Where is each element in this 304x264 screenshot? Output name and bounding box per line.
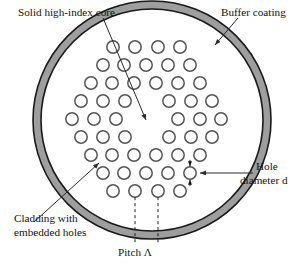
cladding-hole xyxy=(140,59,152,71)
cladding-hole xyxy=(140,167,152,179)
cladding-hole xyxy=(106,149,118,161)
cladding-hole xyxy=(172,149,184,161)
cladding-hole xyxy=(206,95,218,107)
label-solid-high-index-core: Solid high-index core xyxy=(18,6,115,18)
label-hole-line1: Hole xyxy=(256,160,278,172)
cladding-hole xyxy=(97,167,109,179)
cladding-hole xyxy=(119,131,131,143)
label-cladding-line1: Cladding with xyxy=(14,212,78,224)
cladding-hole xyxy=(184,59,196,71)
cladding-hole xyxy=(88,113,100,125)
cladding-hole xyxy=(184,167,196,179)
cladding-hole xyxy=(215,113,227,125)
cladding-hole xyxy=(152,185,164,197)
cladding-hole xyxy=(163,95,175,107)
cladding-hole xyxy=(162,167,174,179)
cladding-hole xyxy=(75,95,87,107)
cladding-hole xyxy=(128,77,140,89)
cladding-hole xyxy=(162,59,174,71)
cladding-hole xyxy=(172,113,184,125)
cladding-hole xyxy=(106,77,118,89)
cladding-hole xyxy=(206,131,218,143)
cladding-hole xyxy=(85,149,97,161)
cladding-hole xyxy=(107,185,119,197)
cladding-hole xyxy=(97,131,109,143)
cladding-hole xyxy=(174,41,186,53)
label-hole-diameter-line2: diameter d xyxy=(240,174,288,186)
pcf-figure: Solid high-index core Buffer coating Cla… xyxy=(0,0,304,264)
cladding-hole xyxy=(185,131,197,143)
cladding-hole xyxy=(129,185,141,197)
cladding-hole xyxy=(110,113,122,125)
cladding-hole xyxy=(118,59,130,71)
cladding-hole xyxy=(163,131,175,143)
cladding-hole xyxy=(129,41,141,53)
cladding-hole xyxy=(128,149,140,161)
cladding-hole xyxy=(85,77,97,89)
cladding-hole xyxy=(172,77,184,89)
label-pitch: Pitch Λ xyxy=(118,246,152,258)
cladding-hole xyxy=(150,77,162,89)
label-cladding-line2: embedded holes xyxy=(14,226,86,238)
cladding-hole xyxy=(150,149,162,161)
cladding-hole xyxy=(174,185,186,197)
cladding-hole xyxy=(97,95,109,107)
cladding-hole xyxy=(97,59,109,71)
label-buffer-coating: Buffer coating xyxy=(221,6,286,18)
cladding-hole xyxy=(118,167,130,179)
cladding-hole xyxy=(185,95,197,107)
cladding-hole xyxy=(66,113,78,125)
cladding-hole xyxy=(75,131,87,143)
cladding-hole xyxy=(152,41,164,53)
cladding-hole xyxy=(194,77,206,89)
pcf-diagram-svg: Solid high-index core Buffer coating Cla… xyxy=(0,0,304,264)
cladding-hole xyxy=(194,149,206,161)
cladding-hole xyxy=(119,95,131,107)
cladding-hole xyxy=(194,113,206,125)
